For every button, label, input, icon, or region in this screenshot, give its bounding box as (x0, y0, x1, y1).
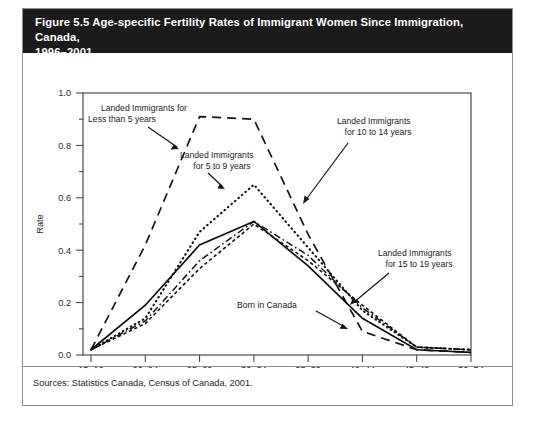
figure-footer: Sources: Statistics Canada, Census of Ca… (23, 366, 512, 405)
figure-source-note: Sources: Statistics Canada, Census of Ca… (33, 378, 253, 388)
ann-10-14-leader (305, 143, 348, 201)
ann-less-5-leader (148, 127, 177, 147)
ann-born-leader (316, 311, 345, 327)
ann-15-19-leader (353, 273, 389, 303)
figure-title-line1: Figure 5.5 Age-specific Fertility Rates … (35, 15, 500, 45)
fertility-line-chart: 0.0 0.2 0.4 0.6 0.8 1.0 Rate 15–19 20–24 (23, 53, 512, 368)
y-tick-label-0: 0.0 (58, 350, 71, 360)
y-tick-label-2: 0.4 (58, 246, 71, 256)
y-axis-title: Rate (35, 214, 45, 233)
annotation-less-than-5-years: Landed Immigrants for Less than 5 years (88, 103, 187, 149)
annotation-10-to-14-years: Landed Immigrants for 10 to 14 years (303, 116, 411, 204)
ann-5-9-line2: for 5 to 9 years (193, 161, 250, 171)
ann-10-14-line2: for 10 to 14 years (345, 127, 412, 137)
y-axis-ticks: 0.0 0.2 0.4 0.6 0.8 1.0 (58, 88, 83, 360)
figure-title-bar: Figure 5.5 Age-specific Fertility Rates … (23, 9, 512, 53)
ann-15-19-line1: Landed Immigrants (378, 248, 452, 258)
series-line-less-than-5-years (91, 117, 471, 353)
annotation-born-in-canada: Born in Canada (237, 300, 348, 329)
ann-born-line1: Born in Canada (237, 300, 297, 310)
annotation-15-to-19-years: Landed Immigrants for 15 to 19 years (350, 248, 452, 305)
y-tick-label-4: 0.8 (58, 141, 71, 151)
ann-less-5-line1: Landed Immigrants for (101, 103, 187, 113)
figure-container: Figure 5.5 Age-specific Fertility Rates … (22, 8, 513, 406)
annotation-5-to-9-years: Landed Immigrants for 5 to 9 years (180, 150, 254, 189)
ann-10-14-line1: Landed Immigrants (337, 116, 411, 126)
ann-15-19-line2: for 15 to 19 years (386, 259, 453, 269)
y-tick-label-5: 1.0 (58, 88, 71, 98)
ann-5-9-line1: Landed Immigrants (180, 150, 254, 160)
data-series-layer (91, 117, 471, 353)
series-line-born-in-canada (91, 221, 471, 352)
plot-frame (83, 93, 471, 355)
y-tick-label-1: 0.2 (58, 298, 71, 308)
ann-less-5-line2: Less than 5 years (88, 114, 156, 124)
y-tick-label-3: 0.6 (58, 193, 71, 203)
ann-less-5-arrowhead (171, 145, 180, 150)
plot-area: 0.0 0.2 0.4 0.6 0.8 1.0 Rate 15–19 20–24 (23, 53, 512, 368)
